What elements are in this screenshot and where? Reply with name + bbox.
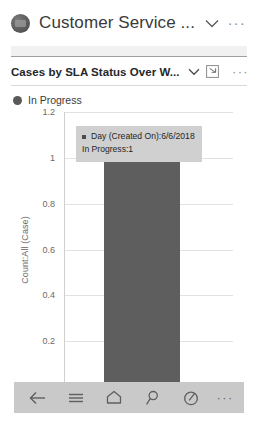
chart-chevron-down-icon[interactable] xyxy=(186,64,201,79)
header-band xyxy=(11,46,247,56)
chart-plot: Count:All (Case) 1.2 1 0.8 0.6 0.4 0.2 0… xyxy=(0,112,258,394)
tooltip-category-text: Day (Created On):6/6/2018 xyxy=(91,130,195,143)
bar-in-progress-6-6-2018[interactable] xyxy=(104,157,180,386)
y-tick-label: 0.4 xyxy=(30,290,60,300)
tooltip-value-text: In Progress:1 xyxy=(82,143,195,156)
tooltip-series-marker-icon xyxy=(82,135,86,139)
chart-card-header: Cases by SLA Status Over W... ··· xyxy=(0,57,258,85)
nav-overflow-menu-button[interactable]: ··· xyxy=(217,391,234,404)
bottom-navigation-bar: ··· xyxy=(14,382,244,413)
gridline xyxy=(65,112,233,113)
compass-icon[interactable] xyxy=(178,386,204,410)
home-icon[interactable] xyxy=(101,386,127,410)
chevron-down-icon[interactable] xyxy=(203,14,221,32)
y-tick-label: 1.2 xyxy=(30,107,60,117)
app-header: Customer Service ... ··· xyxy=(0,0,258,46)
app-avatar-icon xyxy=(11,14,30,33)
y-axis-ticks: 1.2 1 0.8 0.6 0.4 0.2 0 xyxy=(30,112,60,387)
app-title: Customer Service ... xyxy=(39,13,195,33)
hamburger-menu-icon[interactable] xyxy=(63,386,89,410)
search-icon[interactable] xyxy=(140,386,166,410)
chart-tooltip: Day (Created On):6/6/2018 In Progress:1 xyxy=(76,126,202,162)
y-tick-label: 1 xyxy=(30,153,60,163)
expand-chart-icon[interactable] xyxy=(206,65,219,78)
chart-card-actions: ··· xyxy=(206,65,249,78)
legend-label-in-progress[interactable]: In Progress xyxy=(28,94,82,106)
back-arrow-icon[interactable] xyxy=(24,386,50,410)
y-tick-label: 0.2 xyxy=(30,336,60,346)
y-tick-label: 0.6 xyxy=(30,245,60,255)
tooltip-line-1: Day (Created On):6/6/2018 xyxy=(82,130,195,143)
y-tick-label: 0.8 xyxy=(30,199,60,209)
app-overflow-menu-button[interactable]: ··· xyxy=(228,16,250,30)
chart-overflow-menu-button[interactable]: ··· xyxy=(232,65,249,78)
legend-swatch-in-progress xyxy=(13,96,22,105)
chart-title: Cases by SLA Status Over W... xyxy=(11,66,179,78)
